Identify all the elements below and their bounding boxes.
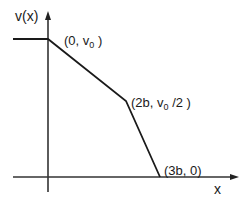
point-label-text: (3b, 0) xyxy=(164,163,202,178)
x-axis-label: x xyxy=(214,182,221,196)
y-axis-label: v(x) xyxy=(15,9,38,23)
x-axis-arrow-icon xyxy=(230,174,239,180)
point-label-origin: (0, v0 ) xyxy=(64,34,102,47)
point-label-text: (0, v xyxy=(64,33,89,48)
point-label-2b: (2b, v0 /2 ) xyxy=(131,96,191,109)
point-label-text: ) xyxy=(94,33,102,48)
y-axis-arrow-icon xyxy=(45,11,51,20)
function-graph xyxy=(0,0,249,209)
point-label-text: (2b, v xyxy=(131,95,164,110)
point-label-3b: (3b, 0) xyxy=(164,164,202,177)
point-label-text: /2 ) xyxy=(169,95,191,110)
